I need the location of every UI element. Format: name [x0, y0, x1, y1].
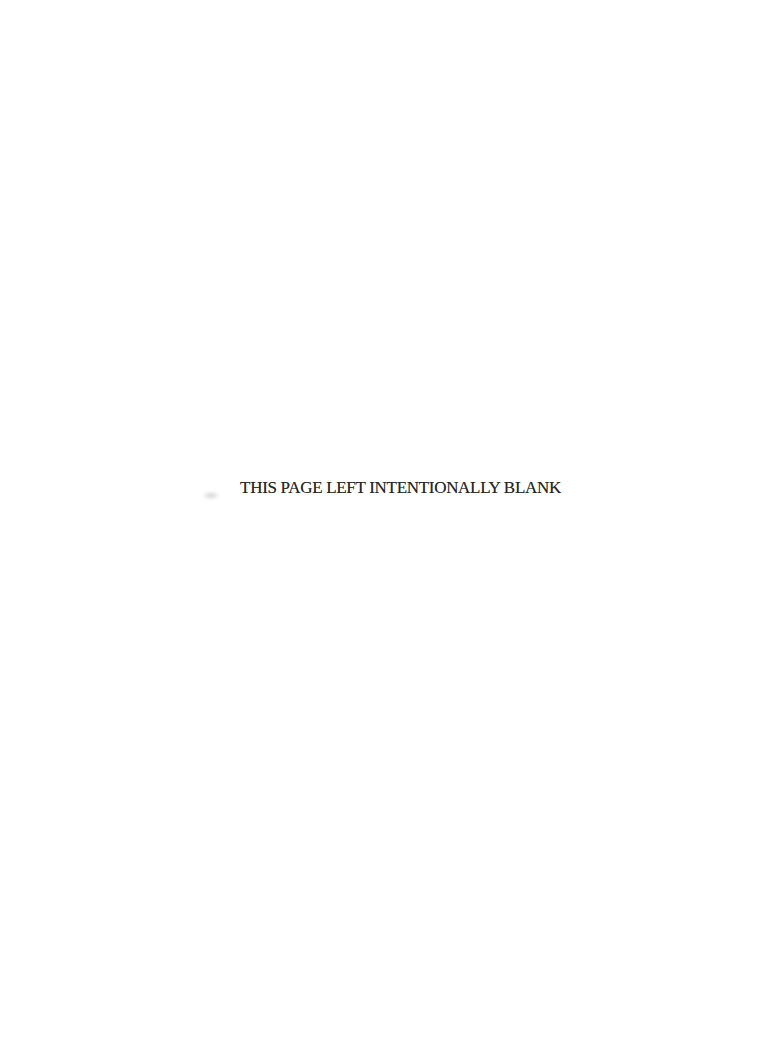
scanned-document-page: THIS PAGE LEFT INTENTIONALLY BLANK	[0, 0, 779, 1051]
blank-page-notice: THIS PAGE LEFT INTENTIONALLY BLANK	[240, 478, 561, 498]
blank-page-notice-row: THIS PAGE LEFT INTENTIONALLY BLANK	[0, 478, 779, 498]
